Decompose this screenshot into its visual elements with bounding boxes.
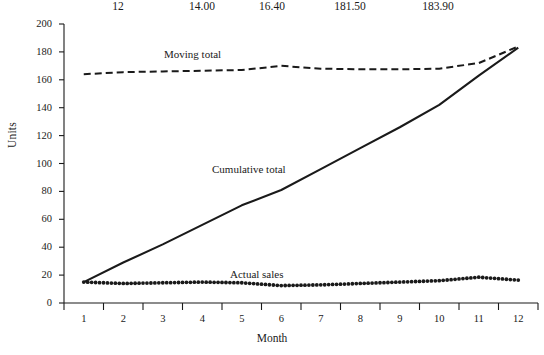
- x-axis-tick-label: 3: [160, 313, 165, 325]
- x-axis-tick-label: 8: [358, 313, 363, 325]
- y-axis-tick-label: 140: [14, 102, 52, 114]
- series-label-actual-sales: Actual sales: [230, 268, 283, 281]
- x-axis-tick-label: 5: [239, 313, 244, 325]
- y-axis-tick-label: 20: [14, 269, 52, 281]
- x-axis-tick-label: 4: [200, 313, 205, 325]
- series-moving-total: [84, 46, 519, 74]
- x-axis-tick-label: 2: [121, 313, 126, 325]
- x-axis-tick-label: 11: [474, 313, 484, 325]
- y-axis-tick-label: 0: [14, 297, 52, 309]
- x-axis-tick-label: 10: [434, 313, 445, 325]
- y-axis-tick-label: 200: [14, 18, 52, 30]
- series-label-moving-total: Moving total: [164, 48, 221, 61]
- y-axis-tick-label: 120: [14, 130, 52, 142]
- series-label-cumulative-total: Cumulative total: [212, 163, 286, 176]
- x-axis-tick-label: 12: [513, 313, 524, 325]
- chart-area: 020406080100120140160180200 123456789101…: [0, 0, 544, 355]
- x-axis-tick-label: 6: [279, 313, 284, 325]
- data-series: [82, 46, 520, 287]
- y-axis-tick-label: 160: [14, 74, 52, 86]
- y-axis-tick-label: 100: [14, 158, 52, 170]
- series-actual-sales: [82, 275, 520, 287]
- y-axis-tick-label: 80: [14, 185, 52, 197]
- y-axis-tick-label: 60: [14, 213, 52, 225]
- series-cumulative-total: [84, 48, 519, 282]
- chart-plot-svg: [0, 0, 544, 355]
- x-axis-tick-label: 1: [81, 313, 86, 325]
- y-axis-tick-label: 40: [14, 241, 52, 253]
- y-axis-tick-label: 180: [14, 46, 52, 58]
- x-axis-tick-label: 7: [318, 313, 323, 325]
- y-axis-title: Units: [6, 122, 18, 148]
- x-axis-title: Month: [0, 332, 544, 344]
- x-axis-tick-label: 9: [397, 313, 402, 325]
